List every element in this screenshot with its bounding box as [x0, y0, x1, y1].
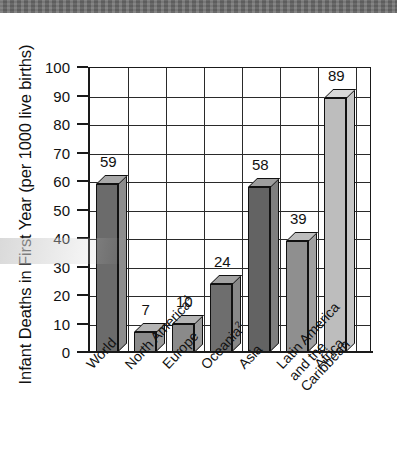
y-axis-tick-mark	[77, 351, 88, 353]
y-axis-tick-mark	[77, 237, 88, 239]
bar: 58	[248, 187, 271, 352]
y-axis-tick-label: 70	[8, 144, 70, 161]
y-axis-tick-label: 30	[8, 258, 70, 275]
gridline-vertical	[356, 68, 357, 352]
y-axis-tick-mark	[77, 66, 88, 68]
y-axis-tick-label: 50	[8, 201, 70, 218]
y-axis-tick-label: 90	[8, 87, 70, 104]
bar-side-face	[270, 178, 279, 352]
bar-front-face	[96, 184, 119, 352]
y-axis-tick-mark	[77, 123, 88, 125]
gridline-vertical	[318, 68, 319, 352]
gridline-vertical	[166, 68, 167, 352]
bar-value-label: 39	[290, 210, 307, 227]
bar-side-face	[118, 175, 127, 352]
y-axis-tick-label: 80	[8, 116, 70, 133]
y-axis-tick-label: 20	[8, 287, 70, 304]
y-axis-tick-label: 40	[8, 230, 70, 247]
bar: 59	[96, 184, 119, 352]
y-axis-tick-mark	[77, 294, 88, 296]
y-axis-tick-label: 0	[8, 344, 70, 361]
y-axis-tick-label: 60	[8, 173, 70, 190]
bar-value-label: 59	[100, 153, 117, 170]
bar-value-label: 89	[328, 67, 345, 84]
gridline-vertical	[204, 68, 205, 352]
y-axis-tick-mark	[77, 323, 88, 325]
y-axis-tick-mark	[77, 209, 88, 211]
gridline-vertical	[128, 68, 129, 352]
bar-side-face	[346, 90, 355, 352]
bar-front-face	[248, 187, 271, 352]
bar-value-label: 7	[141, 301, 149, 318]
bar-value-label: 58	[252, 156, 269, 173]
y-axis-tick-label: 10	[8, 315, 70, 332]
y-axis-tick-mark	[77, 266, 88, 268]
gridline-vertical	[242, 68, 243, 352]
y-axis-tick-mark	[77, 152, 88, 154]
y-axis-tick-label: 100	[8, 59, 70, 76]
infant-mortality-bar-chart: Infant Deaths in First Year (per 1000 li…	[0, 0, 397, 469]
y-axis-tick-mark	[77, 95, 88, 97]
gridline-vertical	[280, 68, 281, 352]
bar-value-label: 24	[214, 253, 231, 270]
y-axis-tick-mark	[77, 180, 88, 182]
